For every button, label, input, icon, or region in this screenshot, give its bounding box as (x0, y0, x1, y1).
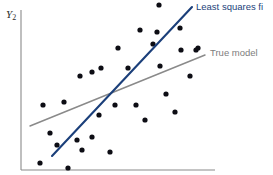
data-point (172, 109, 177, 114)
data-point (133, 102, 138, 107)
data-point (77, 73, 82, 78)
least-squares-fit-line (52, 7, 192, 156)
true-model-annotation: True model (210, 48, 258, 58)
data-point (163, 91, 168, 96)
y-axis-label: Y2 (6, 9, 16, 22)
data-point (37, 160, 42, 165)
data-point (40, 102, 45, 107)
data-point (157, 63, 162, 68)
data-point (79, 147, 84, 152)
data-point (125, 65, 130, 70)
data-point (178, 47, 183, 52)
true-model-line (30, 55, 205, 126)
data-point (177, 25, 182, 30)
data-point (107, 149, 112, 154)
data-point (115, 45, 120, 50)
scatter-plot-figure: Y2 Least squares fi True model (0, 0, 273, 175)
data-point (65, 165, 70, 170)
data-point (54, 142, 59, 147)
data-point (89, 69, 94, 74)
y-axis-label-subscript: 2 (12, 13, 16, 22)
data-point (47, 130, 52, 135)
least-squares-line-group (52, 7, 192, 156)
data-point (61, 99, 66, 104)
data-point (156, 2, 161, 7)
data-point (89, 134, 94, 139)
data-point (195, 45, 200, 50)
data-point (154, 29, 159, 34)
least-squares-fit-annotation: Least squares fi (196, 2, 263, 12)
data-point (187, 73, 192, 78)
data-point (98, 65, 103, 70)
plot-canvas (0, 0, 273, 175)
data-point (137, 27, 142, 32)
data-point (74, 137, 79, 142)
true-model-line-group (30, 55, 205, 126)
data-point (112, 102, 117, 107)
data-point (142, 117, 147, 122)
data-point (96, 112, 101, 117)
